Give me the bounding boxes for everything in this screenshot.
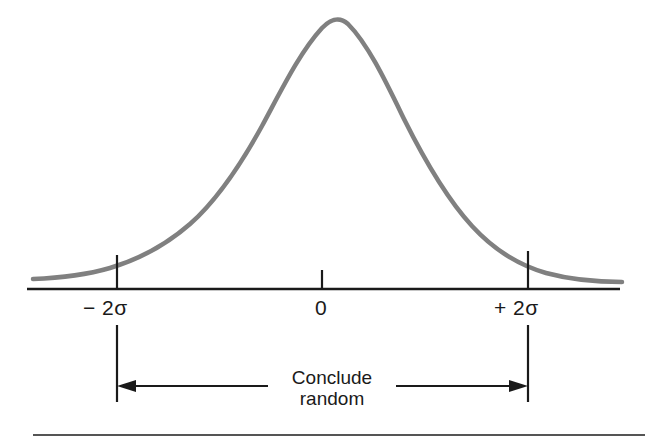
annotation-arrow-left-head [117,380,136,392]
x-tick-label-minus-two-sigma: − 2σ [83,297,128,318]
annotation-label-line-2: random [272,389,392,410]
x-tick-label-zero: 0 [315,297,327,318]
normal-curve-figure: − 2σ 0 + 2σ Conclude random [0,0,652,442]
x-tick-label-plus-two-sigma: + 2σ [494,297,539,318]
annotation-label-line-1: Conclude [272,368,392,389]
normal-distribution-curve [33,19,622,282]
annotation-label: Conclude random [268,366,396,411]
annotation-arrow-right-head [509,380,528,392]
